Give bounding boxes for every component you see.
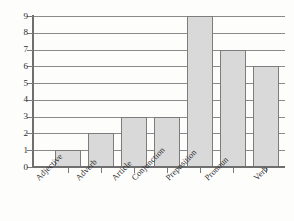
y-tick-label-9: 9 [14,12,28,21]
x-tick-adverb [101,168,102,173]
y-tick-label-1: 1 [14,146,28,155]
y-tick-label-8: 8 [14,28,28,37]
y-tick-label-6: 6 [14,62,28,71]
y-tick-label-7: 7 [14,45,28,54]
bar-chart: 9 8 7 6 5 4 3 2 1 0 Adjective Adverb Art… [0,0,294,221]
y-tick-label-5: 5 [14,79,28,88]
y-tick-label-0: 0 [14,163,28,172]
y-tick-label-4: 4 [14,95,28,104]
y-tick-label-2: 2 [14,129,28,138]
x-tick-pronoun [233,168,234,173]
y-tick-label-3: 3 [14,112,28,121]
x-tick-adjective [68,168,69,173]
y-axis-tick-labels: 9 8 7 6 5 4 3 2 1 0 [0,0,294,221]
x-tick-preposition [200,168,201,173]
